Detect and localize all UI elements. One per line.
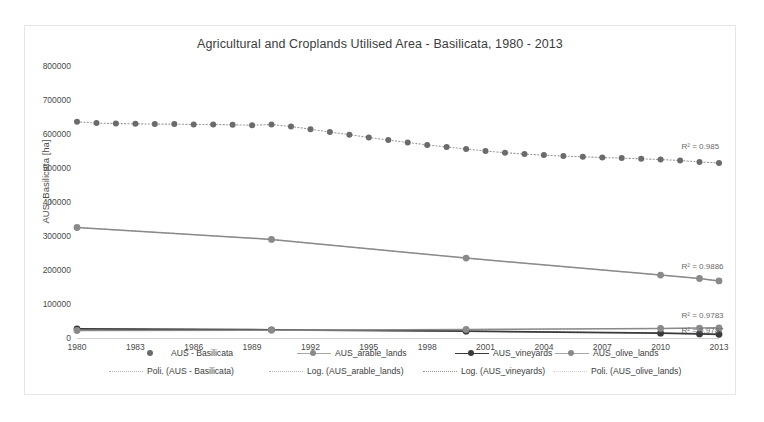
r2-annotation: R² = 0.9886 (682, 262, 724, 271)
series-1 (74, 224, 723, 284)
data-point (502, 150, 508, 156)
data-point (191, 122, 197, 128)
data-point (696, 275, 703, 282)
data-point (346, 132, 352, 138)
legend-marker-icon (555, 349, 589, 358)
legend-row-series: AUS - BasilicataAUS_arable_landsAUS_vine… (25, 348, 735, 364)
legend-marker-icon (133, 349, 167, 358)
legend-item-series[interactable]: AUS_vineyards (455, 348, 552, 358)
legend-label: Log. (AUS_arable_lands) (307, 366, 404, 376)
legend-marker-icon (109, 367, 143, 376)
y-tick-label: 500000 (25, 163, 77, 173)
data-point (132, 121, 138, 127)
legend-marker-icon (553, 367, 587, 376)
y-tick-label: 300000 (25, 231, 77, 241)
data-point (210, 122, 216, 128)
y-tick-label: 100000 (25, 299, 77, 309)
chart-container: Agricultural and Croplands Utilised Area… (24, 25, 736, 395)
data-point (560, 153, 566, 159)
legend-marker-icon (423, 367, 457, 376)
y-tick-label: 600000 (25, 129, 77, 139)
data-point (152, 121, 158, 127)
data-point (249, 122, 255, 128)
legend-label: AUS_arable_lands (335, 348, 407, 358)
data-point (716, 278, 723, 285)
y-axis-label-wrapper: AUS_Basilicata [ha] (25, 26, 26, 27)
legend-label: AUS - Basilicata (171, 348, 233, 358)
legend-item-trendline[interactable]: Poli. (AUS_olive_lands) (553, 366, 681, 376)
data-point (94, 120, 100, 126)
plot-svg (77, 66, 719, 338)
y-tick-label: 800000 (25, 61, 77, 71)
chart-title: Agricultural and Croplands Utilised Area… (25, 37, 735, 51)
data-point (463, 255, 470, 262)
y-tick-label: 200000 (25, 265, 77, 275)
data-point (268, 327, 275, 334)
data-point (599, 155, 605, 161)
series-2 (74, 325, 723, 337)
data-point (657, 325, 664, 332)
trendline (77, 228, 719, 281)
legend-item-series[interactable]: AUS_olive_lands (555, 348, 658, 358)
y-axis-ticks: 8000007000006000005000004000003000002000… (25, 66, 77, 338)
data-point (580, 154, 586, 160)
data-point (657, 272, 664, 279)
data-point (522, 151, 528, 157)
data-point (113, 121, 119, 127)
data-point (405, 140, 411, 146)
legend-item-trendline[interactable]: Log. (AUS_vineyards) (423, 366, 545, 376)
data-point (366, 134, 372, 140)
data-point (444, 144, 450, 150)
legend-label: Poli. (AUS_olive_lands) (591, 366, 681, 376)
legend-row-trendlines: Poli. (AUS - Basilicata)Log. (AUS_arable… (25, 366, 735, 382)
y-tick-label: 400000 (25, 197, 77, 207)
legend-label: Poli. (AUS - Basilicata) (147, 366, 234, 376)
data-point (716, 160, 722, 166)
data-point (288, 124, 294, 130)
x-axis-line (77, 338, 719, 339)
r2-annotation: R² = 0.9783 (682, 311, 724, 320)
data-point (308, 126, 314, 132)
data-point (677, 158, 683, 164)
legend-item-trendline[interactable]: Log. (AUS_arable_lands) (269, 366, 404, 376)
data-point (619, 155, 625, 161)
data-point (269, 122, 275, 128)
data-point (697, 159, 703, 165)
r2-annotation: R² = 0.985 (682, 142, 720, 151)
legend-label: AUS_olive_lands (593, 348, 658, 358)
data-point (171, 121, 177, 127)
data-point (268, 236, 275, 243)
legend-item-trendline[interactable]: Poli. (AUS - Basilicata) (109, 366, 234, 376)
data-point (74, 224, 81, 231)
r2-annotation: R² = 0.9787 (682, 326, 724, 335)
series-0 (74, 119, 722, 166)
data-point (385, 137, 391, 143)
legend-marker-icon (455, 349, 489, 358)
data-point (230, 122, 236, 128)
legend-item-series[interactable]: AUS_arable_lands (297, 348, 407, 358)
plot-area (77, 66, 719, 338)
data-point (327, 129, 333, 135)
data-point (463, 326, 470, 333)
y-tick-label: 700000 (25, 95, 77, 105)
legend-item-series[interactable]: AUS - Basilicata (133, 348, 233, 358)
data-point (463, 146, 469, 152)
data-point (541, 152, 547, 158)
data-point (638, 156, 644, 162)
legend-label: Log. (AUS_vineyards) (461, 366, 545, 376)
data-point (658, 157, 664, 163)
legend-label: AUS_vineyards (493, 348, 552, 358)
data-point (483, 148, 489, 154)
legend-marker-icon (297, 349, 331, 358)
data-point (424, 142, 430, 148)
legend-marker-icon (269, 367, 303, 376)
data-point (74, 119, 80, 125)
data-point (74, 327, 81, 334)
